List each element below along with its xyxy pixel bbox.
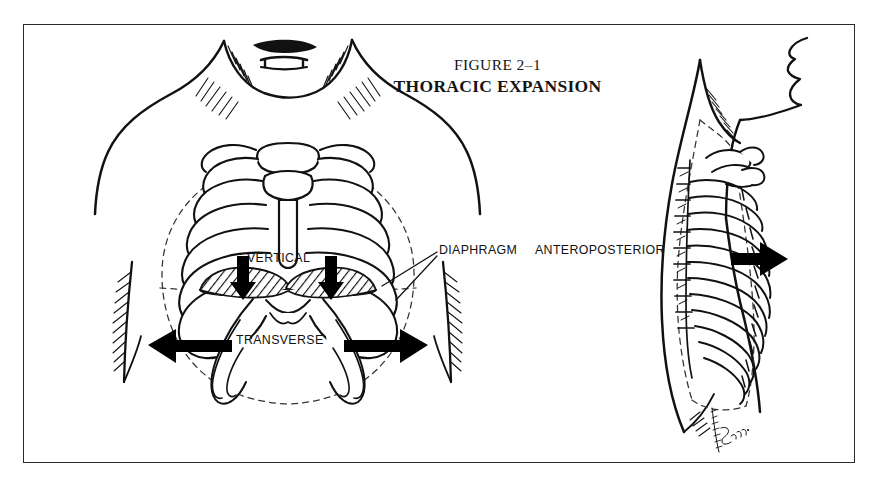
figure-root: FIGURE 2–1 THORACIC EXPANSION VERTICAL T… [0,0,877,485]
label-transverse: TRANSVERSE [236,333,324,347]
page-title: THORACIC EXPANSION [390,75,605,97]
figure-number: FIGURE 2–1 [390,55,605,75]
label-anteroposterior: ANTEROPOSTERIOR [535,243,665,257]
figure-title-block: FIGURE 2–1 THORACIC EXPANSION [390,55,605,97]
label-vertical: VERTICAL [247,251,310,265]
label-diaphragm: DIAPHRAGM [439,243,517,257]
